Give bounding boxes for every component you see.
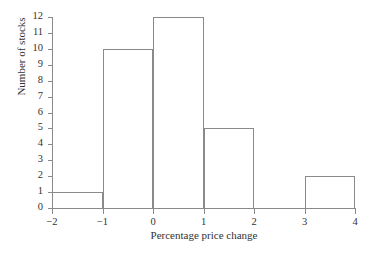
y-tick-mark [48,65,52,66]
y-tick-label: 6 [38,106,43,118]
histogram-bar [305,176,356,208]
y-tick-label: 7 [38,90,43,102]
x-tick-label: 1 [201,216,206,228]
y-tick-mark [48,176,52,177]
y-tick-label: 0 [38,201,43,213]
y-tick-label: 3 [38,153,43,165]
x-tick-label: −2 [46,216,57,228]
y-tick-label: 4 [38,137,43,149]
histogram-figure: 0123456789101112 −2−101234 Percentage pr… [0,0,370,253]
x-tick-label: 3 [302,216,307,228]
y-tick-label: 10 [33,42,44,54]
x-tick-mark [204,209,205,214]
plot-area: 0123456789101112 −2−101234 [52,17,355,208]
x-tick-label: 2 [251,216,256,228]
histogram-bar [103,49,154,208]
x-tick-label: 0 [150,216,155,228]
y-tick-mark [48,128,52,129]
y-tick-label: 9 [38,58,43,70]
y-tick-label: 2 [38,169,43,181]
y-tick-mark [48,33,52,34]
y-tick-label: 11 [33,26,43,38]
y-tick-mark [48,97,52,98]
y-axis-label: Number of stocks [15,0,28,122]
y-tick-mark [48,144,52,145]
histogram-bar [204,128,255,208]
x-tick-mark [153,209,154,214]
y-tick-label: 8 [38,74,43,86]
x-tick-mark [305,209,306,214]
histogram-bar [153,17,204,208]
y-tick-label: 1 [38,185,43,197]
x-axis-label: Percentage price change [52,229,356,242]
y-tick-mark [48,81,52,82]
x-tick-label: −1 [97,216,108,228]
y-tick-label: 12 [33,10,44,22]
x-tick-mark [52,209,53,214]
histogram-bar [52,192,103,208]
y-tick-mark [48,17,52,18]
x-tick-label: 4 [352,216,357,228]
x-tick-mark [355,209,356,214]
y-tick-mark [48,49,52,50]
x-tick-mark [103,209,104,214]
y-tick-label: 5 [38,121,43,133]
y-tick-mark [48,160,52,161]
x-tick-mark [254,209,255,214]
y-tick-mark [48,113,52,114]
